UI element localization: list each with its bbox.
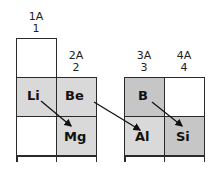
arrow-be-to-al — [94, 102, 140, 130]
arrow-b-to-si — [152, 102, 182, 126]
arrow-li-to-mg — [41, 101, 71, 126]
diagonal-arrows — [0, 0, 216, 173]
